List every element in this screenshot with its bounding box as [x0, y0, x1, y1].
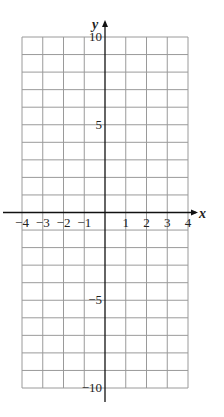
- x-tick-label: −1: [77, 215, 91, 230]
- y-axis-arrow-icon: [102, 20, 108, 27]
- x-tick-label: −3: [36, 215, 50, 230]
- x-axis-label: x: [198, 206, 206, 221]
- coordinate-grid: −4−3−2−11234105−5−10 x y: [0, 0, 224, 417]
- y-tick-label: −10: [82, 380, 102, 395]
- x-tick-label: −2: [57, 215, 71, 230]
- y-tick-label: −5: [88, 292, 102, 307]
- x-axis-arrow-icon: [191, 210, 198, 216]
- x-tick-label: 2: [143, 215, 150, 230]
- y-tick-label: 5: [96, 117, 103, 132]
- x-tick-label: 1: [123, 215, 130, 230]
- axes: [3, 20, 198, 402]
- x-tick-label: 4: [185, 215, 192, 230]
- x-tick-label: 3: [164, 215, 171, 230]
- x-tick-label: −4: [15, 215, 29, 230]
- y-axis-label: y: [90, 17, 99, 32]
